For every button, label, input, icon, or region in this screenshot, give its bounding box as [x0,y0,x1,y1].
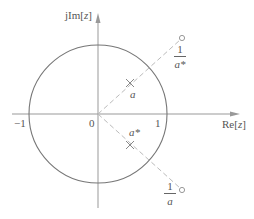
frac-numerator: 1 [177,44,183,55]
point-inv-a-label: 1 a [164,181,176,207]
point-a-conj-x-marker-icon [126,141,134,149]
fraction-bar [164,193,176,194]
frac-numerator: 1 [167,181,173,192]
frac-denominator: a* [175,59,186,70]
tick-label-0: 0 [89,118,95,129]
point-a-label: a [130,89,136,100]
imag-label-prefix: jIm[ [65,9,84,21]
point-inv-a-conj-o-marker-icon [179,35,184,40]
real-axis-label: Re[z] [222,119,246,130]
point-a-conj-label: a* [129,127,140,138]
tick-label-neg1: −1 [14,118,26,129]
imag-axis-arrow-icon [96,13,101,23]
point-inv-a-o-marker-icon [179,187,184,192]
point-inv-a-conj-label: 1 a* [174,44,186,70]
imag-label-suffix: ] [88,9,92,21]
z-plane-diagram [0,0,254,219]
real-label-suffix: ] [242,118,246,130]
frac-denominator: a [167,196,173,207]
tick-label-1: 1 [155,118,161,129]
dashed-line-upper [98,40,180,114]
real-axis-arrow-icon [230,112,240,117]
point-a-x-marker-icon [126,79,134,87]
fraction-bar [174,56,186,57]
imag-axis-label: jIm[z] [65,10,92,21]
real-label-prefix: Re[ [222,118,238,130]
